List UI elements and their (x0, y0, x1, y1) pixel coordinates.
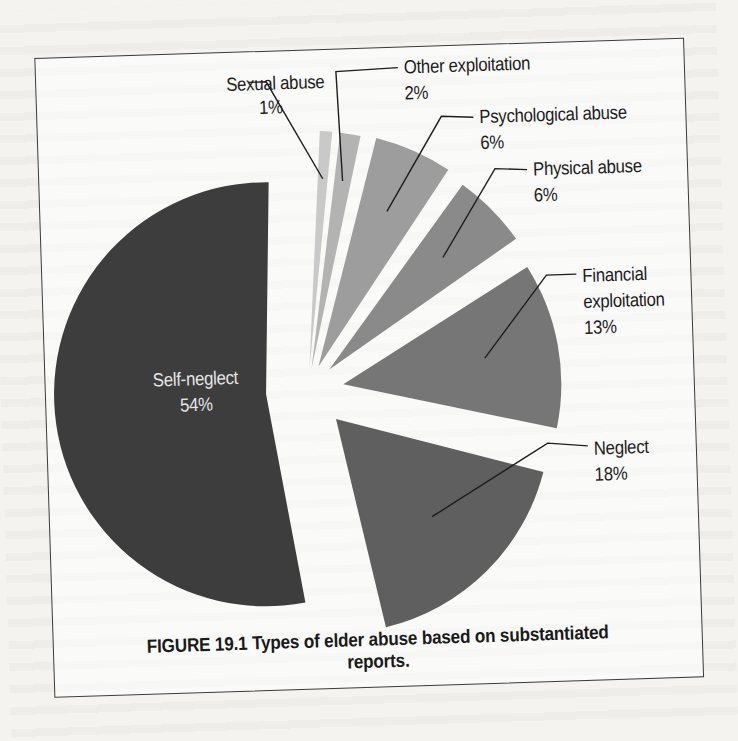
label-financial-exploitation-pct: 13% (584, 315, 617, 340)
label-neglect: Neglect (593, 435, 649, 461)
label-self-neglect: Self-neglect (116, 365, 275, 394)
pct-other-exploitation: 2% (404, 82, 428, 104)
label-financial-exploitation: Financial (582, 262, 647, 288)
label-physical-abuse: Physical abuse (533, 154, 642, 181)
pct-sexual-abuse: 1% (259, 96, 283, 118)
pct-psychological-abuse: 6% (480, 131, 504, 153)
figure-box: Sexual abuse 1% Other exploitation 2% Ps… (34, 38, 704, 698)
label-financial-line2: exploitation (583, 288, 665, 312)
pct-self-neglect: 54% (180, 394, 213, 416)
label-sexual-abuse-pct: 1% (259, 95, 283, 120)
label-other-exploitation: Other exploitation (403, 51, 530, 79)
label-other-exploitation-pct: 2% (404, 81, 428, 106)
label-sexual-abuse: Sexual abuse (226, 70, 325, 97)
label-sexual-abuse-name: Sexual abuse (226, 71, 325, 95)
label-psychological-abuse: Psychological abuse (479, 100, 627, 129)
label-financial-line1: Financial (582, 263, 647, 286)
pie-chart (35, 39, 703, 697)
label-physical-abuse-pct: 6% (533, 183, 557, 208)
pct-physical-abuse: 6% (534, 184, 558, 206)
label-financial-exploitation-line2: exploitation (583, 287, 665, 314)
label-psychological-abuse-name: Psychological abuse (479, 101, 627, 127)
slice-neglect (336, 413, 548, 629)
pct-neglect: 18% (594, 463, 627, 485)
label-self-neglect-pct: 54% (117, 391, 276, 420)
label-physical-abuse-name: Physical abuse (533, 155, 642, 179)
label-neglect-pct: 18% (594, 462, 627, 487)
label-other-exploitation-name: Other exploitation (403, 52, 530, 77)
label-self-neglect-name: Self-neglect (153, 367, 239, 391)
label-neglect-name: Neglect (594, 436, 649, 459)
slice-financial-exploitation (340, 266, 563, 435)
pct-financial-exploitation: 13% (584, 316, 617, 338)
label-psychological-abuse-pct: 6% (480, 130, 504, 155)
